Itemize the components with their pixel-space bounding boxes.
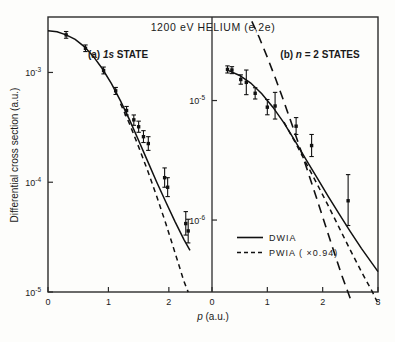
legend-label-1: PWIA ( ×0.94) [269,248,338,258]
data-point-panel-a [186,229,189,232]
figure-title: 1200 eV HELIUM (e,2e) [151,21,276,33]
y-tick-exponent-panel-b: -5 [199,94,205,101]
y-tick-exponent-panel-b: -6 [199,214,205,221]
x-tick-label-panel-a: 2 [166,297,171,307]
data-point-panel-a [102,69,105,72]
legend-label-0: DWIA [269,233,297,243]
x-tick-label-panel-a: 0 [45,297,50,307]
x-axis-label-units: (a.u.) [203,311,229,322]
y-tick-label-panel-b: 10-6 [189,214,205,226]
plot-canvas: 10-310-410-501210-510-601231200 eV HELIU… [0,0,395,342]
y-tick-exponent-panel-a: -5 [35,286,41,293]
data-point-panel-a [114,89,117,92]
panel-label-b: (b) n = 2 STATES [280,49,360,60]
y-tick-label-panel-a: 10-5 [25,286,41,298]
panel-label-a-prefix: (a) [88,49,103,60]
data-point-panel-a [64,33,67,36]
data-point-panel-b [273,104,276,107]
data-point-panel-b [253,92,256,95]
data-point-panel-a [184,222,187,225]
panel-label-b-rest: = 2 STATES [302,49,360,60]
data-point-panel-b [230,68,233,71]
data-point-panel-b [245,81,248,84]
x-axis-label: p (a.u.) [196,311,229,322]
curve-dashed-panel-b [284,122,378,303]
x-tick-label-panel-b: 2 [320,297,325,307]
panel-label-a-italic: 1s [103,49,115,60]
y-axis-label: Differential cross section (a.u.) [9,88,20,223]
y-tick-label-panel-a: 10-3 [25,66,41,78]
curve-solid-panel-a [48,31,190,251]
x-tick-label-panel-b: 1 [265,297,270,307]
panel-label-b-prefix: (b) [280,49,296,60]
data-point-panel-a [142,135,145,138]
data-point-panel-a [84,47,87,50]
data-point-panel-a [137,125,140,128]
data-point-panel-b [266,105,269,108]
data-point-panel-a [147,142,150,145]
data-point-panel-b [226,68,229,71]
panel-label-a: (a) 1s STATE [88,49,149,60]
data-point-panel-a [125,109,128,112]
data-point-panel-b [239,78,242,81]
data-point-panel-b [310,144,313,147]
data-point-panel-a [132,118,135,121]
curve-solid-panel-b [229,71,378,272]
data-point-panel-b [346,199,349,202]
figure-container: 10-310-410-501210-510-601231200 eV HELIU… [0,0,395,342]
data-point-panel-b [294,124,297,127]
panel-label-a-rest: STATE [114,49,148,60]
x-tick-label-panel-b: 0 [209,297,214,307]
curve-dashed-panel-a [121,104,189,292]
y-tick-exponent-panel-a: -4 [35,176,41,183]
y-tick-label-panel-a: 10-4 [25,176,41,188]
y-tick-label-panel-b: 10-5 [189,94,205,106]
y-tick-exponent-panel-a: -3 [35,66,41,73]
data-point-panel-a [166,186,169,189]
x-tick-label-panel-a: 1 [106,297,111,307]
